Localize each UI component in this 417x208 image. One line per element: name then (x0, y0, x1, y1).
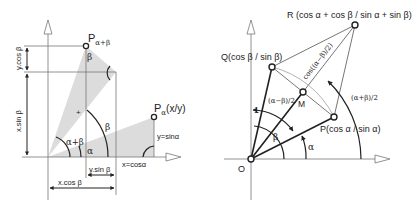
point-p (331, 114, 337, 120)
label-plus-mark: + (76, 108, 81, 117)
label-r: R (cos α + cos β / sin α + sin β) (287, 10, 412, 20)
label-y-cos-beta: y.cos β (14, 46, 23, 70)
label-p-alpha-beta: P (88, 32, 95, 44)
y-axis-arrow-icon (44, 20, 52, 34)
label-right-beta: β (273, 132, 278, 142)
point-m (300, 89, 306, 95)
label-right-alpha: α (308, 142, 314, 152)
label-x-sin-beta: x.sin β (14, 109, 23, 132)
point-p-alpha (151, 114, 156, 119)
label-p-alpha: P (154, 102, 161, 114)
label-o: O (238, 164, 245, 174)
label-y-sin-alpha: y=sinα (157, 132, 180, 141)
y-axis-right-arrow-icon (247, 20, 255, 34)
point-o (248, 156, 254, 162)
arc-right-beta (254, 126, 284, 159)
trig-addition-diagrams: Pα+β Pα(x/y) y.cos β x.sin β y.sin β x.c… (0, 0, 417, 208)
label-half-diff: (α−β)/2 (268, 97, 295, 105)
svg-text:Pα(x/y): Pα(x/y) (154, 102, 186, 117)
label-one: 1 (254, 105, 259, 115)
point-r (352, 22, 358, 28)
point-q (269, 64, 275, 70)
label-y-sin-beta: y.sin β (89, 165, 111, 174)
label-m: M (298, 99, 305, 109)
arc-right-alpha (302, 136, 306, 159)
left-diagram: Pα+β Pα(x/y) y.cos β x.sin β y.sin β x.c… (14, 20, 186, 200)
label-q: Q(cos β / sin β) (221, 52, 282, 62)
x-axis-arrow-icon (166, 153, 181, 161)
label-alpha: α (87, 146, 93, 156)
point-p-alpha-beta (83, 43, 88, 48)
x-axis-right-arrow-icon (375, 155, 390, 163)
label-x-cos-beta: x.cos β (58, 178, 83, 187)
label-x-cos-alpha: x=cosα (122, 160, 147, 169)
label-alpha-plus-beta: α+β (66, 137, 84, 147)
label-half-sum: (α+β)/2 (351, 94, 378, 102)
label-beta-mid: β (105, 122, 110, 132)
label-cos-half-diff: cos((α−β)/2) (301, 41, 335, 81)
label-beta-top: β (87, 52, 92, 62)
right-diagram: O Q(cos β / sin β) R (cos α + cos β / si… (221, 10, 412, 200)
svg-text:Pα+β: Pα+β (88, 32, 110, 47)
label-p: P(cos α / sin α) (320, 124, 380, 134)
